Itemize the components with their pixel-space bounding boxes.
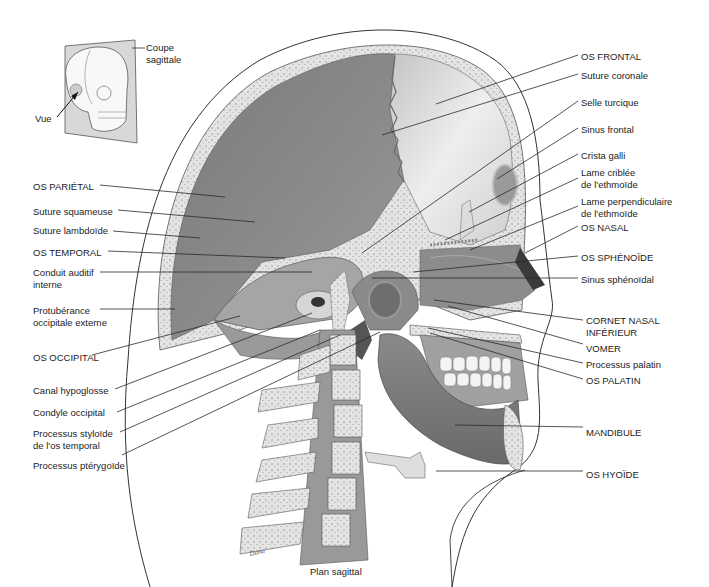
label-lame-perpendiculaire: Lame perpendiculaire de l'ethmoïde <box>581 196 672 219</box>
figure-caption: Plan sagittal <box>310 566 362 577</box>
label-os-hyoide: OS HYOÏDE <box>586 469 639 481</box>
label-os-temporal: OS TEMPORAL <box>33 247 101 259</box>
hyoid-bone <box>365 452 425 478</box>
label-os-palatin: OS PALATIN <box>586 375 641 387</box>
label-conduit-auditif-interne: Conduit auditif interne <box>33 267 94 290</box>
label-suture-lambdoide: Suture lambdoïde <box>33 225 108 237</box>
label-processus-styloide: Processus styloïde de l'os temporal <box>33 428 113 451</box>
inset-plane-label: Coupe sagittale <box>146 42 181 65</box>
cervical-spine <box>240 330 368 565</box>
label-selle-turcique: Selle turcique <box>581 97 639 109</box>
label-mandibule: MANDIBULE <box>586 427 641 439</box>
label-canal-hypoglosse: Canal hypoglosse <box>33 385 109 397</box>
label-os-nasal: OS NASAL <box>581 222 629 234</box>
label-sinus-sphenoidal: Sinus sphénoïdal <box>581 274 654 286</box>
label-sinus-frontal: Sinus frontal <box>581 124 634 136</box>
label-lame-criblee: Lame criblée de l'ethmoïde <box>581 167 638 190</box>
skull-illustration: Dana <box>0 0 709 587</box>
label-condyle-occipital: Condyle occipital <box>33 407 105 419</box>
label-cornet-nasal-inferieur: CORNET NASAL INFÉRIEUR <box>586 315 660 338</box>
inset-view-label: Vue <box>35 113 52 125</box>
inset-skull-view <box>57 40 145 143</box>
skull-sagittal-diagram: Dana Coupe sagittale Vue OS PARIÉTAL Sut… <box>0 0 709 587</box>
label-processus-palatin: Processus palatin <box>586 359 661 371</box>
label-processus-pterygoide: Processus ptérygoïde <box>33 460 125 472</box>
label-vomer: VOMER <box>586 343 621 355</box>
label-os-sphenoide: OS SPHÉNOÏDE <box>581 252 653 264</box>
label-protuberance-occipitale: Protubérance occipitale externe <box>33 305 107 328</box>
label-os-frontal: OS FRONTAL <box>581 51 641 63</box>
label-os-parietal: OS PARIÉTAL <box>33 181 94 193</box>
label-suture-coronale: Suture coronale <box>581 70 648 82</box>
label-crista-galli: Crista galli <box>581 150 625 162</box>
label-os-occipital: OS OCCIPITAL <box>33 352 99 364</box>
label-suture-squameuse: Suture squameuse <box>33 206 113 218</box>
